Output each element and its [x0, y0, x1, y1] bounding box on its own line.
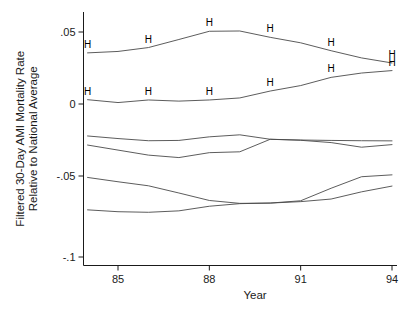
data-point-marker-h: H	[145, 86, 152, 97]
h-markers-group: HHHHHHHHHHHH	[84, 17, 396, 97]
series-line-2	[88, 71, 392, 103]
series-line-6	[88, 186, 392, 212]
data-point-marker-h: H	[84, 86, 91, 97]
data-point-marker-h: H	[267, 77, 274, 88]
series-line-1	[88, 31, 392, 63]
data-point-marker-h: H	[206, 86, 213, 97]
series-line-5	[88, 175, 392, 204]
y-axis-tick-label: .05	[60, 26, 75, 38]
data-point-marker-h: H	[84, 39, 91, 50]
data-point-marker-h: H	[267, 23, 274, 34]
y-axis-title-line1: Filtered 30-Day AMI Mortality Rate	[14, 51, 26, 227]
x-axis-tick-label: 88	[203, 273, 215, 285]
y-axis-tick-label: -.1	[63, 251, 76, 263]
x-axis-tick-label: 85	[112, 273, 124, 285]
x-axis-tick-label: 94	[386, 273, 398, 285]
series-line-4	[88, 139, 392, 157]
data-point-marker-h: H	[327, 37, 334, 48]
data-point-marker-h: H	[327, 63, 334, 74]
x-axis-title: Year	[243, 289, 266, 301]
line-chart-plot: HHHHHHHHHHHH .050-.05-.185889194YearFilt…	[0, 0, 418, 317]
x-axis-tick-label: 91	[295, 273, 307, 285]
data-point-marker-h: H	[206, 17, 213, 28]
chart-container: HHHHHHHHHHHH .050-.05-.185889194YearFilt…	[0, 0, 418, 317]
y-axis-tick-label: 0	[69, 98, 75, 110]
y-axis-tick-label: -.05	[57, 170, 76, 182]
series-group	[88, 31, 392, 212]
axis-labels-group: .050-.05-.185889194YearFiltered 30-Day A…	[14, 26, 398, 301]
data-point-marker-h: H	[145, 34, 152, 45]
data-point-marker-h: H	[388, 57, 395, 68]
y-axis-title-line2: Relative to National Average	[27, 66, 39, 211]
series-line-3	[88, 135, 392, 141]
